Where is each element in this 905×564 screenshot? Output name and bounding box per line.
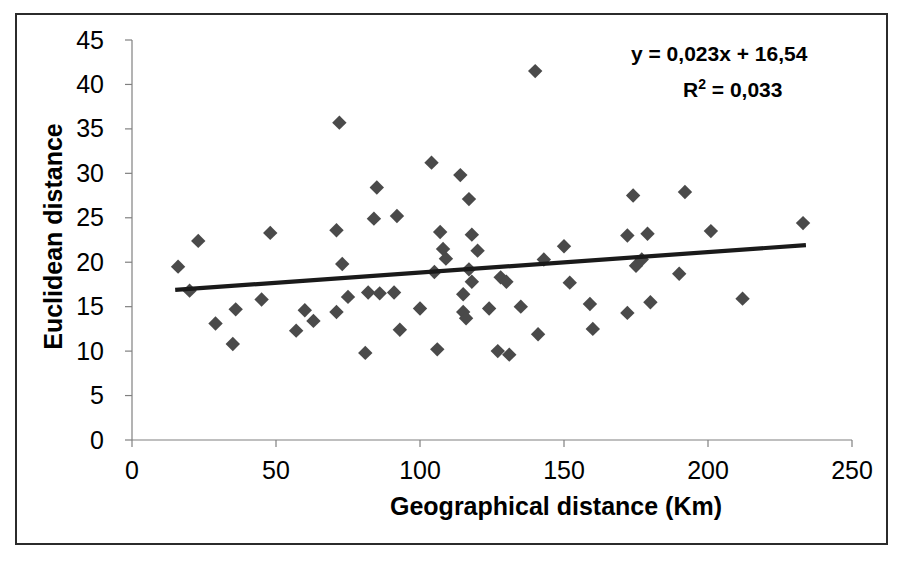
trendline-equation-label: y = 0,023x + 16,54 <box>631 42 807 66</box>
x-tick-label: 50 <box>246 456 306 485</box>
r-squared-label: R2 = 0,033 <box>683 76 782 102</box>
r-squared-exponent: 2 <box>698 76 706 92</box>
r-squared-suffix: = 0,033 <box>706 78 782 101</box>
data-points <box>171 64 810 362</box>
x-tick-label: 0 <box>102 456 162 485</box>
scatter-chart-figure: 45 40 35 30 25 20 15 10 5 0 0 50 100 150… <box>0 0 905 564</box>
x-tick-label: 250 <box>822 456 882 485</box>
x-tick-label: 200 <box>678 456 738 485</box>
x-axis-title: Geographical distance (Km) <box>390 492 722 521</box>
y-axis-title: Euclidean distance <box>39 67 68 407</box>
x-tick-label: 150 <box>534 456 594 485</box>
y-tick-label: 45 <box>58 26 104 55</box>
trendline <box>175 245 806 290</box>
x-tick-label: 100 <box>390 456 450 485</box>
y-tick-label: 0 <box>58 426 104 455</box>
r-squared-prefix: R <box>683 78 698 101</box>
